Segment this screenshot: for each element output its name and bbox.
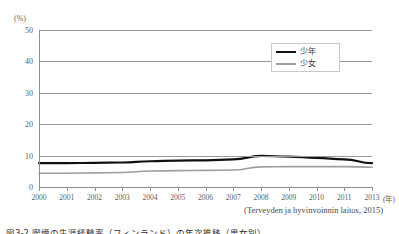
legend-item-boys: 少年	[276, 46, 316, 58]
series-line-少年	[39, 156, 372, 163]
x-tick-2006	[206, 187, 207, 191]
x-tick-label-2013: 2013	[365, 193, 380, 202]
chart-figure: (%) 01020304050 200020012002200320042005…	[0, 0, 399, 234]
x-tick-label-2009: 2009	[281, 193, 296, 202]
gridline-50	[39, 30, 372, 31]
series-line-少女	[39, 167, 372, 174]
figure-caption: 図3-2 喫煙の生涯経験率（フィンランド）の年次推移（男女別）	[6, 226, 399, 234]
x-tick-2004	[150, 187, 151, 191]
gridline-10	[39, 156, 372, 157]
x-tick-label-2007: 2007	[226, 193, 241, 202]
y-axis-unit-label: (%)	[14, 14, 26, 23]
x-tick-label-2004: 2004	[143, 193, 158, 202]
x-tick-label-2006: 2006	[198, 193, 213, 202]
x-tick-2002	[95, 187, 96, 191]
x-tick-2007	[233, 187, 234, 191]
legend-label-girls: 少女	[300, 60, 316, 68]
legend-swatch-boys	[276, 51, 296, 53]
x-axis-tick-labels: 2000200120022003200420052006200720082009…	[0, 193, 399, 205]
x-tick-2005	[178, 187, 179, 191]
x-tick-2010	[317, 187, 318, 191]
gridline-30	[39, 93, 372, 94]
x-tick-label-2001: 2001	[59, 193, 74, 202]
y-axis-line	[39, 30, 40, 187]
y-tick-label-10: 10	[25, 151, 33, 160]
x-tick-2001	[67, 187, 68, 191]
legend-item-girls: 少女	[276, 58, 316, 70]
source-note: (Terveyden ja hyvinvoinnin laitos, 2015)	[0, 205, 383, 215]
x-tick-2009	[289, 187, 290, 191]
x-tick-label-2008: 2008	[254, 193, 269, 202]
x-tick-label-2003: 2003	[115, 193, 130, 202]
x-tick-label-2002: 2002	[87, 193, 102, 202]
x-axis-unit-label: (年)	[383, 193, 395, 204]
x-tick-label-2000: 2000	[32, 193, 47, 202]
x-tick-2003	[122, 187, 123, 191]
y-tick-label-40: 40	[25, 57, 33, 66]
x-tick-2008	[261, 187, 262, 191]
x-tick-2011	[344, 187, 345, 191]
y-axis-tick-labels: 01020304050	[0, 30, 36, 187]
legend-swatch-girls	[276, 63, 296, 65]
x-axis-ticks	[39, 187, 372, 192]
legend: 少年 少女	[271, 43, 340, 72]
x-tick-2000	[39, 187, 40, 191]
x-tick-label-2005: 2005	[170, 193, 185, 202]
y-tick-label-20: 20	[25, 120, 33, 129]
y-tick-label-30: 30	[25, 88, 33, 97]
y-tick-label-50: 50	[25, 26, 33, 35]
x-tick-label-2011: 2011	[337, 193, 352, 202]
gridline-20	[39, 124, 372, 125]
x-tick-2013	[372, 187, 373, 191]
legend-label-boys: 少年	[300, 48, 316, 56]
x-tick-label-2010: 2010	[309, 193, 324, 202]
y-tick-label-0: 0	[29, 183, 33, 192]
